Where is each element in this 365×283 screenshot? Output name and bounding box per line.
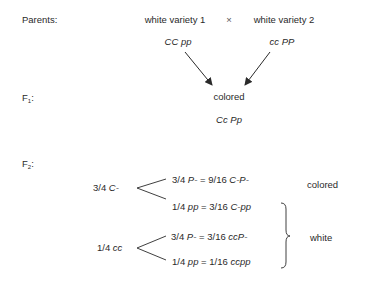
diagram-lines [0,0,365,283]
arrow-right-parent-to-f1 [245,52,270,85]
branch-lines-c-dominant [137,179,166,199]
brace-white [281,203,290,268]
branch-lines-c-recessive [137,236,166,260]
arrow-left-parent-to-f1 [185,52,212,85]
